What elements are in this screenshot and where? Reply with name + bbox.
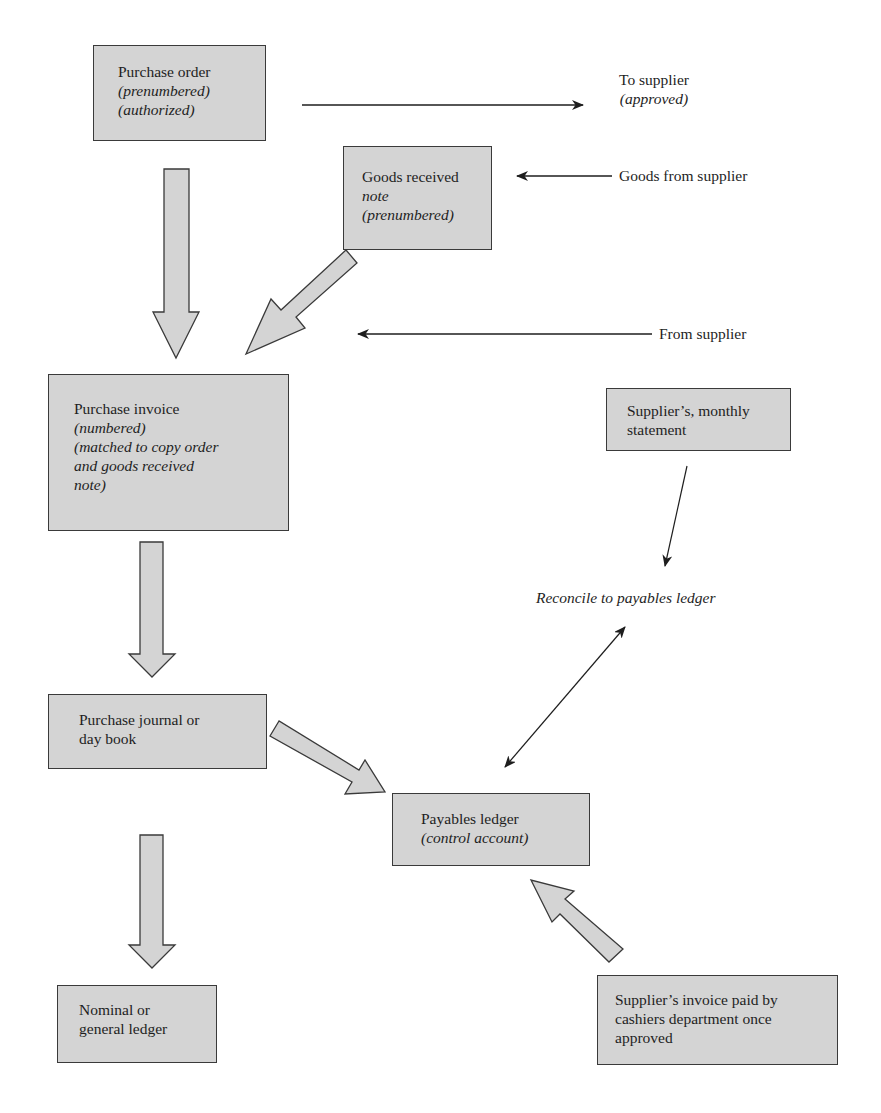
node-title: Payables ledger bbox=[421, 809, 589, 828]
node-title: cashiers department once bbox=[615, 1009, 837, 1028]
node-title: Purchase invoice bbox=[74, 399, 288, 418]
node-note: (prenumbered) bbox=[362, 205, 491, 224]
node-cashier-payment: Supplier’s invoice paid by cashiers depa… bbox=[597, 975, 838, 1065]
node-title: Supplier’s invoice paid by bbox=[615, 990, 837, 1009]
block-arrow-journal-to-nominal bbox=[129, 835, 175, 968]
node-note: and goods received bbox=[74, 456, 288, 475]
node-note: (prenumbered) bbox=[118, 81, 265, 100]
label-from-supplier-text: From supplier bbox=[659, 325, 746, 342]
node-title: statement bbox=[627, 420, 790, 439]
label-goods-from-supplier: Goods from supplier bbox=[619, 166, 747, 185]
node-title: general ledger bbox=[79, 1019, 216, 1038]
node-goods-received-note: Goods received note (prenumbered) bbox=[343, 146, 492, 250]
label-to-supplier-text: To supplier bbox=[604, 70, 704, 89]
block-arrow-journal-to-payables bbox=[270, 721, 385, 794]
node-title: Purchase order bbox=[118, 62, 265, 81]
block-arrow-order-to-invoice bbox=[153, 169, 199, 358]
node-note: note) bbox=[74, 475, 288, 494]
node-note: (authorized) bbox=[118, 100, 265, 119]
node-note: (control account) bbox=[421, 828, 589, 847]
node-title: approved bbox=[615, 1028, 837, 1047]
label-to-supplier: To supplier (approved) bbox=[604, 70, 704, 108]
node-title: Goods received bbox=[362, 167, 491, 186]
label-from-supplier: From supplier bbox=[659, 324, 746, 343]
label-reconcile: Reconcile to payables ledger bbox=[536, 588, 715, 607]
block-arrow-invoice-to-journal bbox=[129, 542, 175, 677]
node-purchase-invoice: Purchase invoice (numbered) (matched to … bbox=[48, 374, 289, 531]
node-title: Nominal or bbox=[79, 1000, 216, 1019]
node-purchase-journal: Purchase journal or day book bbox=[48, 694, 267, 769]
label-to-supplier-note: (approved) bbox=[604, 89, 704, 108]
block-arrow-cashier-to-payables bbox=[531, 880, 623, 962]
block-arrow-grn-to-invoice bbox=[246, 250, 357, 354]
node-note: (matched to copy order bbox=[74, 437, 288, 456]
label-goods-from-supplier-text: Goods from supplier bbox=[619, 167, 747, 184]
node-title: day book bbox=[79, 729, 266, 748]
node-purchase-order: Purchase order (prenumbered) (authorized… bbox=[93, 45, 266, 141]
node-nominal-ledger: Nominal or general ledger bbox=[57, 985, 217, 1063]
node-title: Purchase journal or bbox=[79, 710, 266, 729]
arrow-statement-to-reconcile bbox=[665, 466, 687, 566]
node-note: (numbered) bbox=[74, 418, 288, 437]
node-supplier-statement: Supplier’s, monthly statement bbox=[606, 388, 791, 451]
node-title: Supplier’s, monthly bbox=[627, 401, 790, 420]
node-payables-ledger: Payables ledger (control account) bbox=[392, 793, 590, 866]
double-arrow-reconcile-payables bbox=[505, 627, 625, 767]
label-reconcile-text: Reconcile to payables ledger bbox=[536, 589, 715, 606]
node-note: note bbox=[362, 186, 491, 205]
